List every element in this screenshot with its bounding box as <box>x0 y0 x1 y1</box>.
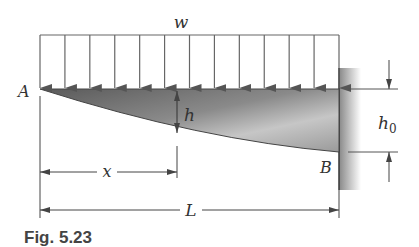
figure-caption: Fig. 5.23 <box>24 228 92 247</box>
cantilever-beam-diagram: w A B h h0 x L Fig. 5.23 <box>0 0 419 247</box>
point-b-label: B <box>319 158 332 177</box>
point-a-label: A <box>16 82 30 101</box>
length-label-l: L <box>184 200 196 220</box>
fixed-wall <box>339 68 361 190</box>
load-label: w <box>174 12 189 32</box>
depth-label-h: h <box>184 105 195 125</box>
position-label-x: x <box>102 162 111 181</box>
distributed-load <box>40 35 339 88</box>
depth-label-h0: h0 <box>378 113 397 136</box>
